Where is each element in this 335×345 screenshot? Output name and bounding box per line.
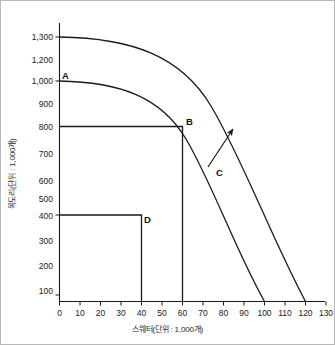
- y-tick-label-300: 300: [39, 236, 53, 246]
- x-axis-ticks: [60, 302, 327, 306]
- x-axis-title: 스웨터(단위 : 1,000개): [1, 323, 334, 334]
- x-tick-label-70: 70: [198, 308, 208, 318]
- y-axis-tick-labels: 1,300 1,200 1,000 900 800 700 600 500 40…: [32, 32, 54, 296]
- y-tick-label-500: 500: [39, 194, 53, 204]
- y-tick-label-400: 400: [39, 211, 53, 221]
- y-tick-label-100: 100: [39, 286, 53, 296]
- x-tick-label-100: 100: [257, 308, 271, 318]
- point-label-b: B: [186, 116, 193, 127]
- y-tick-label-1200: 1,200: [32, 55, 54, 65]
- y-tick-label-800: 800: [39, 122, 53, 132]
- x-tick-label-60: 60: [178, 308, 188, 318]
- guide-line-point-d: [60, 215, 142, 302]
- x-tick-label-110: 110: [278, 308, 292, 318]
- x-tick-label-40: 40: [137, 308, 147, 318]
- shift-arrow-icon: [208, 129, 233, 167]
- x-tick-label-50: 50: [157, 308, 167, 318]
- y-tick-label-900: 900: [39, 99, 53, 109]
- point-label-c: C: [216, 167, 223, 178]
- x-tick-label-80: 80: [219, 308, 229, 318]
- guide-line-point-b: [60, 127, 183, 302]
- y-tick-label-600: 600: [39, 176, 53, 186]
- x-tick-label-120: 120: [298, 308, 312, 318]
- point-label-a: A: [62, 70, 69, 81]
- y-tick-label-200: 200: [39, 261, 53, 271]
- point-labels: A B C D: [62, 70, 223, 225]
- point-label-d: D: [144, 214, 151, 225]
- x-axis-tick-labels: 0 10 20 30 40 50 60 70 80 90 100 110 120…: [57, 308, 333, 318]
- chart-canvas: 0 10 20 30 40 50 60 70 80 90 100 110 120…: [1, 1, 335, 345]
- x-tick-label-90: 90: [239, 308, 249, 318]
- x-tick-label-20: 20: [96, 308, 106, 318]
- y-axis-ticks: [56, 37, 60, 295]
- y-tick-label-1300: 1,300: [32, 32, 54, 42]
- y-tick-label-700: 700: [39, 149, 53, 159]
- ppf-chart-figure: 0 10 20 30 40 50 60 70 80 90 100 110 120…: [0, 0, 335, 345]
- y-tick-label-1000: 1,000: [32, 76, 54, 86]
- x-tick-label-130: 130: [319, 308, 333, 318]
- inner-ppf-curve: [60, 81, 265, 302]
- x-tick-label-30: 30: [116, 308, 126, 318]
- guide-lines: [60, 127, 183, 302]
- x-tick-label-0: 0: [57, 308, 62, 318]
- x-tick-label-10: 10: [75, 308, 85, 318]
